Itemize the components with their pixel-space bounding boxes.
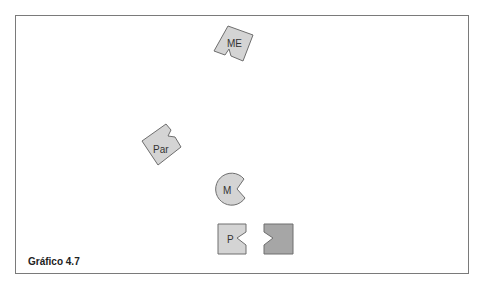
figure-caption: Gráfico 4.7 [28, 256, 80, 267]
diagram-canvas: ME Par M P [0, 0, 483, 287]
shape-me: ME [214, 26, 253, 61]
shape-par: Par [142, 124, 181, 165]
shape-p: P [218, 224, 246, 254]
shape-par-label: Par [153, 144, 169, 155]
shape-me-label: ME [227, 38, 242, 49]
shape-p-label: P [227, 234, 234, 245]
shape-m-label: M [223, 185, 231, 196]
shape-p-complement [264, 224, 293, 254]
shape-m: M [216, 173, 245, 205]
